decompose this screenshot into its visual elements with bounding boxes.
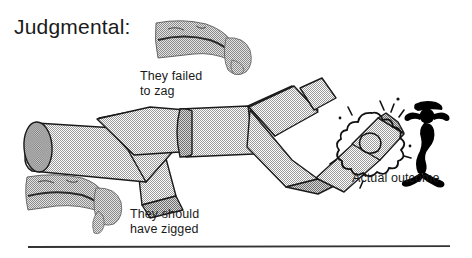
pointing-hand-upper [155,21,251,75]
cartoon-figure-page: Judgmental: They failed to zag They shou… [0,0,472,258]
page-title: Judgmental: [14,15,131,40]
bottom-rule [28,246,450,247]
stick-figure-head [420,109,435,124]
caption-actual-outcome: Actual outcome [352,171,440,186]
caption-they-should-have-zigged: They should have zigged [130,207,199,237]
stick-figure-arm-left [404,112,420,121]
stick-figure-torso [416,123,434,174]
explosion-spark-2 [391,104,394,112]
hand-upper-sleeve [155,21,232,60]
explosion-spark-6 [404,156,411,158]
explosion-dot-1 [396,97,399,100]
caption-they-failed-to-zag: They failed to zag [140,69,202,99]
stick-figure-arm-right [434,112,450,121]
explosion-dot-2 [339,117,342,120]
explosion-spark-3 [399,110,404,117]
pointing-hand-lower [26,175,122,234]
tube-joint-4 [177,109,192,157]
explosion-spark-1 [380,101,384,110]
hand-lower-thumb [93,211,104,234]
explosion-spark-4 [348,107,352,115]
explosion-dot-3 [409,145,412,148]
